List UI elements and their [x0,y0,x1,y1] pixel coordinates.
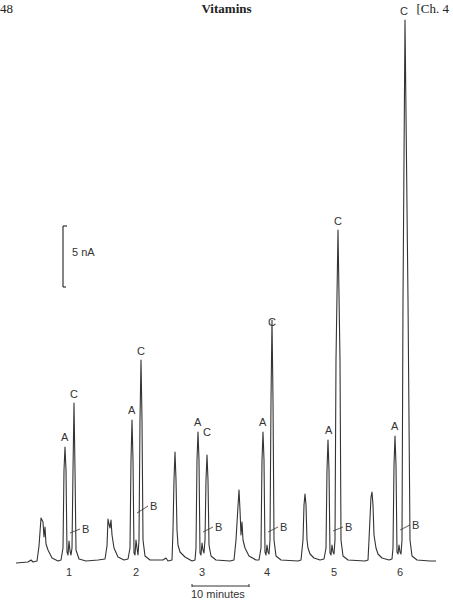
peak-label-c-run6: C [400,5,408,17]
run-label-5: 5 [331,566,337,578]
chromatogram-figure: 5 nA A A A A A A C C C C C C B B B B B B… [0,0,453,601]
run-label-3: 3 [199,566,205,578]
run-label-4: 4 [264,566,270,578]
run-label-2: 2 [133,566,139,578]
time-scale-bar [192,584,249,587]
peak-label-b-run3: B [215,521,222,533]
peak-label-c-run5: C [334,215,342,227]
peak-label-b-run2: B [150,500,157,512]
time-scale-label: 10 minutes [191,588,245,600]
peak-label-a-run6: A [391,420,399,432]
chromatogram-trace [16,20,436,563]
peak-label-b-run6: B [412,519,419,531]
peak-label-a-run5: A [325,424,333,436]
peak-label-c-run2: C [137,345,145,357]
peak-label-c-run3: C [203,426,211,438]
run-label-6: 6 [397,566,403,578]
run-numbers: 1 2 3 4 5 6 [66,566,403,578]
peak-label-b-run1: B [82,523,89,535]
peak-label-a-run4: A [259,416,267,428]
current-scale-label: 5 nA [72,246,95,258]
peak-label-c-run1: C [70,388,78,400]
peak-label-a-run2: A [128,404,136,416]
peak-label-b-run5: B [345,521,352,533]
peak-label-c-run4: C [268,316,276,328]
peak-label-a-run1: A [61,431,69,443]
peak-label-b-run4: B [280,521,287,533]
current-scale-bar [63,226,67,287]
peak-label-a-run3: A [194,416,202,428]
peak-labels-a: A A A A A A [61,404,399,443]
run-label-1: 1 [66,566,72,578]
peak-labels-c: C C C C C C [70,5,408,438]
